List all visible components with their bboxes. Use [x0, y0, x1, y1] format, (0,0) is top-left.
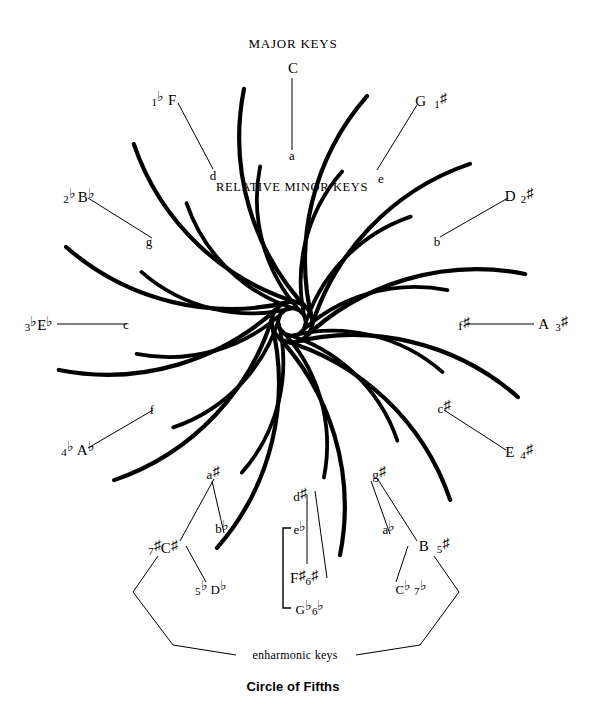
connector-Cs-as	[180, 479, 214, 541]
minor-key-c-sharp[interactable]: c♯	[438, 399, 451, 415]
major-key-B-flat[interactable]: 2♭B♭	[63, 187, 95, 205]
major-key-F[interactable]: 1♭F	[152, 90, 177, 108]
flat-icon: ♭	[220, 578, 227, 593]
major-keys-title: MAJOR KEYS	[248, 37, 337, 50]
connector-G-e	[377, 105, 417, 170]
outer-arc-Fs-Cs	[291, 335, 518, 397]
flat-icon: ♭	[30, 314, 37, 329]
major-key-E[interactable]: E4♯	[505, 443, 533, 460]
major-key-C-name: C	[288, 60, 298, 76]
outer-arc-Eb-Bb	[217, 321, 279, 548]
connector-F-d	[178, 103, 213, 169]
major-key-A[interactable]: A3♯	[538, 315, 567, 332]
major-key-Cs-name: C	[161, 540, 171, 556]
sharp-icon: ♯	[154, 538, 161, 553]
flat-icon: ♭	[88, 186, 95, 201]
outer-arc-A-E	[305, 96, 367, 323]
enharmonic-minor-e-flat[interactable]: e♭	[294, 520, 307, 537]
major-key-Ab-name: A	[77, 442, 88, 458]
major-key-E-flat[interactable]: 3♭E♭	[25, 315, 54, 333]
minor-key-c[interactable]: c	[123, 318, 129, 331]
minor-key-c-name: c	[123, 317, 129, 332]
sharp-icon: ♯	[526, 442, 533, 457]
leader-ds-to-ds2	[315, 491, 327, 578]
flat-icon: ♭	[404, 578, 411, 593]
enh-Db-name: D	[211, 582, 220, 597]
inner-circle-arcs	[137, 167, 448, 478]
major-key-A-flat[interactable]: 4♭A♭	[61, 440, 94, 458]
sharp-icon: ♯	[300, 486, 307, 501]
major-key-A-name: A	[538, 316, 549, 332]
major-key-C[interactable]: C	[288, 61, 298, 76]
minor-key-f[interactable]: f	[150, 403, 154, 416]
major-key-B[interactable]: B5♯	[419, 537, 450, 554]
diagram-caption: Circle of Fifths	[246, 680, 339, 693]
bracket-right-polyline	[356, 556, 459, 655]
sharp-icon: ♯	[379, 464, 386, 479]
sharp-icon: ♯	[463, 315, 470, 330]
flat-icon: ♭	[201, 578, 208, 593]
flat-icon: ♭	[388, 519, 395, 534]
major-key-E-name: E	[505, 444, 514, 460]
sharp-icon: ♯	[311, 568, 318, 583]
major-key-D[interactable]: D2♯	[505, 187, 533, 204]
minor-key-a-name: a	[289, 148, 295, 163]
sharp-icon: ♯	[442, 536, 449, 551]
minor-key-g[interactable]: g	[146, 235, 153, 248]
leader-Cs-to-Db	[186, 546, 206, 582]
enharmonic-minor-b-flat[interactable]: b♭	[215, 519, 229, 536]
connector-Ab-f	[88, 410, 153, 448]
flat-icon: ♭	[67, 439, 74, 454]
minor-key-b[interactable]: b	[434, 235, 441, 248]
enharmonic-bracket-center	[283, 528, 291, 608]
major-key-F-name: F	[168, 92, 176, 108]
enh-Gb-name: G	[296, 602, 305, 617]
flat-icon: ♭	[222, 518, 229, 533]
sharp-icon: ♯	[443, 398, 450, 413]
leader-B-to-Cb	[396, 546, 408, 582]
flat-icon: ♭	[46, 314, 53, 329]
major-key-C-sharp[interactable]: 7♯C♯	[148, 539, 178, 556]
connector-D-b	[440, 198, 508, 237]
major-key-Eb-name: E	[37, 317, 46, 333]
minor-key-e[interactable]: e	[378, 172, 384, 185]
minor-key-d-sharp[interactable]: d♯	[293, 487, 307, 503]
enharmonic-keys-label: enharmonic keys	[252, 649, 337, 661]
flat-icon: ♭	[69, 186, 76, 201]
minor-key-f-name: f	[150, 402, 154, 417]
connector-Bb-g	[88, 198, 152, 238]
bracket-center-shape	[283, 528, 291, 608]
flat-icon: ♭	[157, 89, 164, 104]
outer-arc-Cs-Ab	[254, 333, 481, 500]
sharp-icon: ♯	[561, 314, 568, 329]
flat-icon: ♭	[88, 439, 95, 454]
major-key-B-name: B	[419, 538, 429, 554]
minor-key-d[interactable]: d	[210, 169, 217, 182]
enharmonic-minor-a-flat[interactable]: a♭	[383, 520, 396, 537]
minor-key-a[interactable]: a	[289, 149, 295, 162]
sharp-icon: ♯	[171, 538, 178, 553]
major-key-D-name: D	[505, 188, 516, 204]
enharmonic-major-C-flat[interactable]: C♭7♭	[395, 579, 426, 597]
major-key-Bb-name: B	[78, 189, 88, 205]
major-key-G[interactable]: G1♯	[415, 92, 446, 109]
outer-arc-Bb-F	[114, 284, 281, 511]
minor-key-f-sharp[interactable]: f♯	[458, 316, 469, 332]
sharp-icon: ♯	[526, 186, 533, 201]
flat-icon: ♭	[299, 519, 306, 534]
sharp-icon: ♯	[212, 464, 219, 479]
major-key-F-sharp[interactable]: F♯6♯	[290, 569, 318, 586]
enharmonic-major-G-flat[interactable]: G♭6♭	[296, 599, 325, 617]
enh-Cb-name: C	[395, 582, 404, 597]
enharmonic-major-D-flat[interactable]: 5♭D♭	[195, 579, 227, 597]
flat-icon: ♭	[420, 578, 427, 593]
minor-key-g-name: g	[146, 234, 153, 249]
outer-arc-C-G	[66, 247, 293, 309]
minor-key-g-sharp[interactable]: g♯	[372, 465, 386, 481]
sharp-icon: ♯	[440, 91, 447, 106]
minor-key-a-sharp[interactable]: a♯	[207, 465, 220, 481]
major-key-G-name: G	[415, 93, 426, 109]
circle-of-fifths-diagram: MAJOR KEYS RELATIVE MINOR KEYS enharmoni…	[0, 0, 592, 714]
bracket-left-polyline	[133, 556, 236, 655]
minor-key-b-name: b	[434, 234, 441, 249]
